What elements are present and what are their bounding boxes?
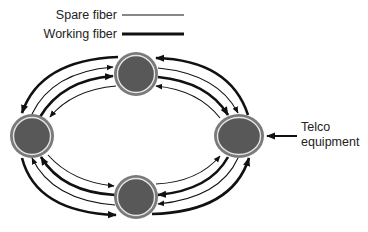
spare-fiber-arc (50, 86, 116, 117)
working-fiber-arc (22, 158, 116, 215)
spare-fiber-arc (156, 156, 220, 184)
working-fiber-arc (41, 157, 115, 195)
spare-fiber-arc (48, 155, 114, 186)
spare-fiber-arc (32, 67, 113, 114)
spare-fiber-arc (158, 158, 238, 204)
telco-label-line2: equipment (301, 135, 360, 149)
spare-fiber-arc (32, 158, 115, 205)
working-fiber-arc (22, 57, 118, 113)
node-top (114, 52, 158, 96)
node-right (214, 114, 264, 158)
working-fiber-arc (152, 158, 249, 214)
telco-label-line1: Telco (301, 120, 330, 134)
node-bottom (114, 175, 158, 219)
legend-spare-label: Spare fiber (56, 8, 117, 22)
node-left (10, 114, 54, 158)
fiber-ring-diagram: Spare fiber Working fiber (0, 0, 368, 232)
spare-fiber-arc (158, 68, 238, 113)
legend-working-label: Working fiber (44, 27, 117, 41)
spare-fiber-arc (156, 86, 220, 118)
legend: Spare fiber Working fiber (44, 8, 184, 41)
telco-equipment-callout: Telco equipment (267, 120, 360, 149)
